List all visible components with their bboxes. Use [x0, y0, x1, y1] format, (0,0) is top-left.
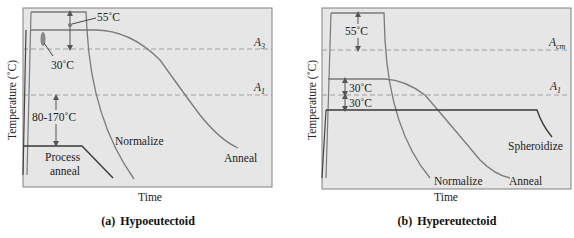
- normalize-offset-label: 55˚C: [97, 11, 120, 23]
- anneal-offset-label: 30˚C: [51, 59, 74, 71]
- process-anneal-offset-label: 80-170˚C: [32, 111, 76, 123]
- y-axis-label-a: Temperature (˚C): [6, 60, 19, 140]
- spheroidize-label: Spheroidize: [508, 140, 563, 153]
- heat-treatment-diagram: A3 A1 55˚C 30˚C 80-170˚C Normalize Annea…: [0, 0, 574, 238]
- panel-hypereutectoid: Acm A1 55˚C 30˚C 30˚C Normalize Anneal S…: [306, 8, 571, 228]
- process-anneal-label-1: Process: [45, 151, 81, 163]
- anneal-label-b: Anneal: [509, 175, 542, 187]
- process-anneal-label-2: anneal: [50, 165, 80, 177]
- normalize-label-b: Normalize: [434, 175, 483, 187]
- y-axis-label-b: Temperature (˚C): [306, 60, 319, 140]
- caption-b: (b)Hypereutectoid: [398, 214, 497, 228]
- x-axis-label-a: Time: [138, 191, 162, 203]
- caption-a: (a)Hypoeutectoid: [101, 214, 195, 228]
- anneal-offset-label-b: 30˚C: [349, 82, 372, 94]
- panel-hypoeutectoid: A3 A1 55˚C 30˚C 80-170˚C Normalize Annea…: [6, 8, 272, 228]
- normalize-label-a: Normalize: [115, 135, 164, 147]
- spheroidize-offset-label: 30˚C: [349, 97, 372, 109]
- anneal-label-a: Anneal: [224, 152, 257, 164]
- normalize-offset-label-b: 55˚C: [345, 25, 368, 37]
- x-axis-label-b: Time: [434, 191, 458, 203]
